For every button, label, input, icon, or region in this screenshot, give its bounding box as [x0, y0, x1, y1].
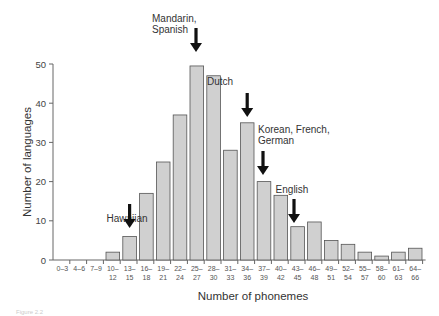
y-tick-label: 50 — [35, 59, 46, 70]
y-tick-label: 30 — [35, 137, 46, 148]
bar — [224, 150, 238, 260]
x-tick-label: 31– — [225, 265, 237, 272]
annotation-label: German — [258, 135, 294, 146]
arrow-icon — [190, 43, 202, 52]
y-tick-label: 20 — [35, 176, 46, 187]
annotation-label: Dutch — [207, 76, 233, 87]
x-tick-label: 60 — [378, 274, 386, 281]
x-tick-label: 43– — [292, 265, 304, 272]
x-tick-label: 63 — [395, 274, 403, 281]
bar — [291, 227, 305, 260]
x-tick-label: 45 — [294, 274, 302, 281]
arrow-icon — [128, 204, 131, 220]
x-tick-label: 52– — [342, 265, 354, 272]
x-tick-label: 49– — [325, 265, 337, 272]
x-tick-label: 34– — [241, 265, 253, 272]
phoneme-histogram: 010203040500–34–67–910–1213–1516–1819–21… — [0, 0, 439, 316]
x-tick-label: 46– — [309, 265, 321, 272]
y-tick-label: 0 — [41, 255, 46, 266]
x-tick-label: 12 — [109, 274, 117, 281]
bar — [308, 222, 322, 260]
bar — [392, 252, 406, 260]
x-tick-label: 25– — [191, 265, 203, 272]
x-tick-label: 33 — [227, 274, 235, 281]
annotation-label: English — [276, 184, 309, 195]
bar — [240, 123, 254, 260]
arrow-icon — [257, 166, 269, 175]
bar — [140, 193, 154, 260]
x-tick-label: 24 — [176, 274, 184, 281]
x-tick-label: 21 — [159, 274, 167, 281]
x-tick-label: 16– — [141, 265, 153, 272]
x-tick-label: 19– — [157, 265, 169, 272]
arrow-icon — [288, 214, 300, 223]
annotation-label: Mandarin, — [152, 13, 196, 24]
bar — [257, 182, 271, 260]
x-tick-label: 61– — [393, 265, 405, 272]
x-tick-label: 51 — [327, 274, 335, 281]
x-tick-label: 54 — [344, 274, 352, 281]
x-tick-label: 18 — [143, 274, 151, 281]
x-tick-label: 55– — [359, 265, 371, 272]
x-tick-label: 64– — [409, 265, 421, 272]
x-tick-label: 27 — [193, 274, 201, 281]
x-tick-label: 10– — [107, 265, 119, 272]
x-tick-label: 40– — [275, 265, 287, 272]
x-tick-label: 0–3 — [57, 265, 69, 272]
x-tick-label: 7–9 — [90, 265, 102, 272]
bar — [207, 76, 221, 260]
x-tick-label: 36 — [243, 274, 251, 281]
x-axis-title: Number of phonemes — [198, 290, 309, 302]
bar — [375, 256, 389, 260]
x-tick-label: 30 — [210, 274, 218, 281]
bar — [123, 236, 137, 260]
x-tick-label: 48 — [311, 274, 319, 281]
x-tick-label: 13– — [124, 265, 136, 272]
bar — [274, 195, 288, 260]
bar — [408, 248, 422, 260]
x-tick-label: 15 — [126, 274, 134, 281]
y-tick-label: 10 — [35, 215, 46, 226]
bar — [156, 162, 170, 260]
annotation-label: Korean, French, — [258, 124, 330, 135]
x-tick-label: 4–6 — [73, 265, 85, 272]
y-tick-label: 40 — [35, 98, 46, 109]
x-tick-label: 28– — [208, 265, 220, 272]
bar — [324, 240, 338, 260]
arrow-icon — [241, 108, 253, 117]
arrow-icon — [246, 93, 249, 109]
arrow-icon — [292, 199, 295, 215]
arrow-icon — [261, 151, 264, 167]
bar — [106, 252, 120, 260]
x-tick-label: 37– — [258, 265, 270, 272]
bar — [341, 244, 355, 260]
x-tick-label: 66 — [411, 274, 419, 281]
x-tick-label: 22– — [174, 265, 186, 272]
x-tick-label: 58– — [376, 265, 388, 272]
figure-caption: Figure 2.2 — [16, 309, 44, 315]
bar — [173, 115, 187, 260]
bar — [358, 252, 372, 260]
x-tick-label: 39 — [260, 274, 268, 281]
x-tick-label: 57 — [361, 274, 369, 281]
y-axis-title: Number of languages — [21, 107, 33, 217]
bar — [190, 66, 204, 260]
arrow-icon — [194, 28, 197, 44]
x-tick-label: 42 — [277, 274, 285, 281]
annotation-label: Spanish — [152, 24, 188, 35]
